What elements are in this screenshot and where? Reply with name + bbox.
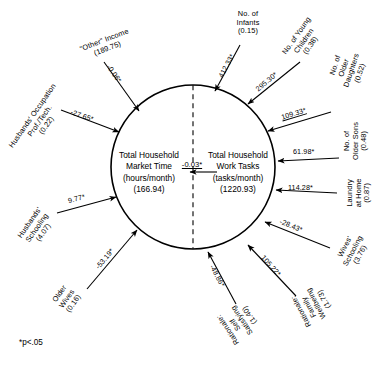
node-work-tasks-line3: (tasks/month) — [196, 173, 280, 184]
label-no-of-infants: No. of Infants (0.15) — [222, 10, 274, 36]
node-market-time: Total Household Market Time (hours/month… — [107, 150, 191, 196]
arrow-husbands-schooling — [57, 197, 116, 213]
arrow-older-wives — [87, 230, 137, 289]
label-no-of-older-sons: No. of Older Sons (0.48) — [343, 112, 369, 170]
significance-footnote: *p<.05 — [19, 338, 43, 347]
node-market-time-line3: (hours/month) — [107, 173, 191, 184]
label-no-of-infants-line3: (0.15) — [222, 27, 274, 36]
label-laundry-at-home-line3: (0.87) — [363, 165, 372, 221]
arrow-no-of-older-sons — [278, 158, 339, 161]
node-market-time-line4: (166.94) — [107, 184, 191, 195]
label-no-of-older-sons-line3: (0.48) — [360, 112, 369, 170]
node-work-tasks: Total Household Work Tasks (tasks/month)… — [196, 150, 280, 196]
label-laundry-at-home: Laundry at Home (0.87) — [346, 165, 372, 221]
figure-canvas: Total Household Market Time (hours/month… — [0, 0, 389, 370]
node-work-tasks-line4: (1220.93) — [196, 184, 280, 195]
coefficient-cross: -0.03* — [166, 160, 218, 169]
coefficient-no-of-older-sons: 61.98* — [293, 148, 314, 156]
coefficient-laundry-at-home: 114.28* — [288, 184, 313, 192]
